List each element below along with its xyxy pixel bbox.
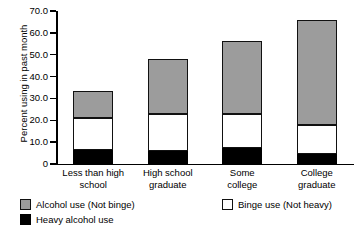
- y-tick-label: 70.0: [0, 6, 48, 16]
- y-tick-label: 30.0: [0, 93, 48, 103]
- legend-label: Binge use (Not heavy): [238, 199, 332, 210]
- chart-legend: Alcohol use (Not binge) Binge use (Not h…: [0, 197, 362, 231]
- y-tick-label: 20.0: [0, 115, 48, 125]
- segment-binge-use: [297, 125, 337, 155]
- x-axis-label-line: graduate: [274, 179, 360, 191]
- legend-item-alcohol-use: Alcohol use (Not binge): [20, 199, 135, 210]
- segment-heavy-alcohol-use: [297, 154, 337, 164]
- y-tick-label: 60.0: [0, 28, 48, 38]
- segment-binge-use: [148, 114, 188, 151]
- segment-heavy-alcohol-use: [222, 148, 262, 164]
- x-axis-label-line: Less than high: [50, 167, 136, 179]
- y-tick-label: 50.0: [0, 50, 48, 60]
- stacked-bar-chart: Percent using in past month 70.060.050.0…: [0, 0, 362, 234]
- y-tick-label: 0: [0, 159, 48, 169]
- x-axis-label-2: High schoolgraduate: [125, 167, 211, 190]
- y-tick-label: 10.0: [0, 137, 48, 147]
- segment-alcohol-use: [222, 41, 262, 114]
- bars-area: [56, 8, 354, 164]
- legend-item-binge-use: Binge use (Not heavy): [222, 199, 332, 210]
- x-axis-label-line: college: [199, 179, 285, 191]
- x-axis-labels: Less than highschoolHigh schoolgraduateS…: [56, 167, 354, 195]
- legend-label: Heavy alcohol use: [36, 214, 114, 225]
- legend-label: Alcohol use (Not binge): [36, 199, 135, 210]
- segment-heavy-alcohol-use: [148, 151, 188, 164]
- x-axis-label-1: Less than highschool: [50, 167, 136, 190]
- x-axis-label-line: graduate: [125, 179, 211, 191]
- segment-binge-use: [73, 118, 113, 149]
- bar-4: [297, 20, 337, 164]
- x-axis-label-4: Collegegraduate: [274, 167, 360, 190]
- legend-item-heavy-alcohol-use: Heavy alcohol use: [20, 214, 114, 225]
- legend-swatch-gray-icon: [20, 199, 31, 210]
- legend-swatch-white-icon: [222, 199, 233, 210]
- bar-3: [222, 41, 262, 164]
- legend-swatch-black-icon: [20, 214, 31, 225]
- segment-binge-use: [222, 114, 262, 148]
- segment-alcohol-use: [73, 91, 113, 119]
- y-tick-label: 40.0: [0, 72, 48, 82]
- x-axis-label-line: school: [50, 179, 136, 191]
- x-axis-label-line: High school: [125, 167, 211, 179]
- segment-alcohol-use: [297, 20, 337, 125]
- segment-alcohol-use: [148, 59, 188, 114]
- x-axis-label-3: Somecollege: [199, 167, 285, 190]
- segment-heavy-alcohol-use: [73, 150, 113, 164]
- x-axis-label-line: Some: [199, 167, 285, 179]
- bar-2: [148, 59, 188, 164]
- bar-1: [73, 91, 113, 164]
- x-axis-label-line: College: [274, 167, 360, 179]
